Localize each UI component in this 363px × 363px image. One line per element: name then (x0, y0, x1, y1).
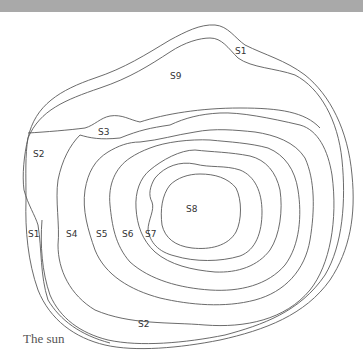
contour-s6-s7 (136, 150, 281, 272)
label-s3: S3 (98, 127, 109, 137)
label-s4: S4 (66, 229, 78, 239)
label-s5: S5 (96, 229, 107, 239)
label-s8: S8 (186, 204, 198, 214)
label-s7: S7 (145, 229, 156, 239)
label-s2-bottom: S2 (138, 319, 149, 329)
contour-s3-top (28, 108, 320, 133)
contour-s7-s8 (148, 163, 262, 260)
contour-s4-s5 (84, 130, 313, 305)
label-s1-left: S1 (28, 229, 39, 239)
contour-s2-left (23, 138, 110, 343)
contour-s8 (161, 174, 240, 248)
label-s1-top: S1 (235, 46, 246, 56)
label-s2-left: S2 (33, 149, 44, 159)
caption: The sun (23, 331, 65, 346)
contour-s1-inner (28, 38, 344, 344)
contour-s5-s6 (110, 140, 300, 291)
label-s6: S6 (122, 229, 134, 239)
sun-region-diagram: S1 S1 S2 S2 S3 S4 S5 S6 S7 S8 S9 The sun (0, 0, 363, 363)
label-s9: S9 (170, 71, 182, 81)
contour-s1-outer (26, 25, 353, 349)
